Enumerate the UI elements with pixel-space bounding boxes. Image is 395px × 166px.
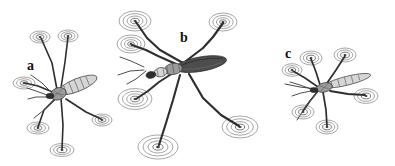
dimple [354, 89, 378, 104]
water-strider-figure-svg: a [0, 0, 395, 166]
dimple [334, 48, 356, 62]
dimple [27, 122, 49, 134]
dimple [292, 105, 314, 119]
panel-label-b: b [180, 30, 188, 45]
head [310, 87, 318, 92]
dimple [30, 31, 50, 43]
panel-label-c: c [285, 46, 291, 61]
dimple [13, 77, 35, 89]
dimple [300, 51, 322, 65]
head [46, 93, 54, 99]
dimple [117, 35, 145, 53]
figure-root: a [0, 0, 395, 166]
panel-label-a: a [27, 58, 34, 73]
